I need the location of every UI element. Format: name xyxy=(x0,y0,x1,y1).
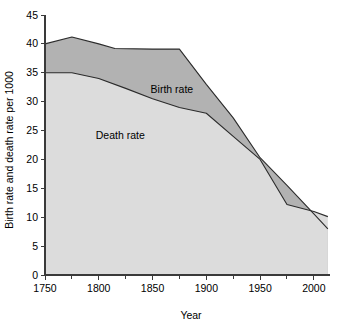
series-label-birth-rate: Birth rate xyxy=(151,83,194,95)
y-tick-label: 25 xyxy=(26,124,38,136)
x-tick-label: 1800 xyxy=(87,282,111,294)
x-axis-title: Year xyxy=(180,309,202,321)
series-label-death-rate: Death rate xyxy=(96,129,145,141)
y-tick-label: 0 xyxy=(32,269,38,281)
y-axis-ticks: 051015202530354045 xyxy=(26,9,45,281)
demographic-transition-chart: 051015202530354045 175018001850190019502… xyxy=(0,0,337,326)
y-tick-label: 45 xyxy=(26,9,38,21)
y-tick-label: 35 xyxy=(26,66,38,78)
x-axis: 175018001850190019502000 xyxy=(33,275,330,294)
chart-container: 051015202530354045 175018001850190019502… xyxy=(0,0,337,326)
x-axis-ticks: 175018001850190019502000 xyxy=(33,275,325,294)
x-tick-label: 1850 xyxy=(141,282,165,294)
y-axis-title: Birth rate and death rate per 1000 xyxy=(3,71,15,229)
x-tick-label: 1950 xyxy=(248,282,272,294)
y-tick-label: 5 xyxy=(32,240,38,252)
x-tick-label: 2000 xyxy=(302,282,326,294)
y-tick-label: 15 xyxy=(26,182,38,194)
y-tick-label: 40 xyxy=(26,37,38,49)
x-tick-label: 1900 xyxy=(195,282,219,294)
y-axis: 051015202530354045 xyxy=(26,9,45,281)
y-tick-label: 10 xyxy=(26,211,38,223)
plot-areas xyxy=(45,37,328,275)
y-tick-label: 30 xyxy=(26,95,38,107)
x-tick-label: 1750 xyxy=(33,282,57,294)
y-tick-label: 20 xyxy=(26,153,38,165)
